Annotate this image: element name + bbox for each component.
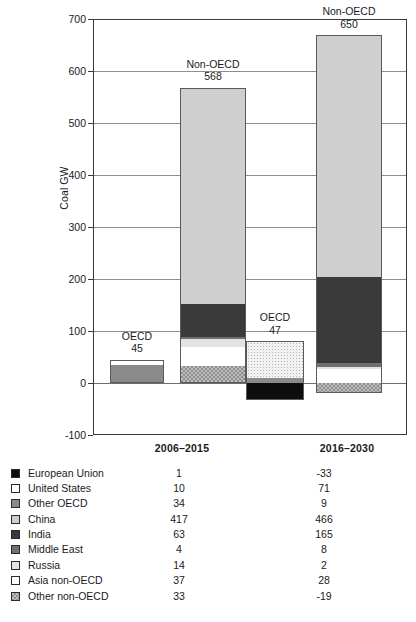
y-axis-tick-label: -100 [48,430,86,440]
legend-series-name: India [28,528,51,541]
legend-swatch-icon [11,515,20,524]
legend-row[interactable]: Russia142 [0,558,416,573]
bar-group-name: Non-OECD [294,5,404,18]
legend-swatch-icon [11,576,20,585]
legend-row[interactable]: Asia non-OECD3728 [0,574,416,589]
y-axis-tick-label: 500 [48,118,86,128]
legend-value-2016-2030: 28 [300,574,348,587]
stacked-bar[interactable] [110,19,164,435]
legend-value-2016-2030: 2 [300,559,348,572]
bar-total-annotation: Non-OECD650 [294,5,404,30]
bar-segment[interactable] [110,365,164,383]
legend-swatch-icon [11,499,20,508]
bar-group-name: OECD [82,330,192,343]
legend-swatch-icon [11,545,20,554]
legend-swatch-icon [11,530,20,539]
x-axis-category-label: 2016–2030 [287,442,407,454]
legend-series-name: Asia non-OECD [28,574,103,587]
legend-value-2016-2030: 71 [300,482,348,495]
legend-value-2006-2015: 1 [155,467,203,480]
stacked-bar[interactable] [316,19,382,435]
legend-value-2006-2015: 14 [155,559,203,572]
legend-series-name: Other OECD [28,497,88,510]
legend-value-2006-2015: 33 [155,590,203,603]
legend-series-name: Other non-OECD [28,590,109,603]
bar-total-value: 45 [82,342,192,355]
stacked-bar[interactable] [246,19,304,435]
y-axis-tick-label: 300 [48,222,86,232]
legend-value-2016-2030: -19 [300,590,348,603]
bar-segment[interactable] [316,363,382,367]
legend-value-2016-2030: -33 [300,467,348,480]
legend-series-name: United States [28,482,91,495]
legend-value-2016-2030: 8 [300,543,348,556]
legend-row[interactable]: Other OECD349 [0,497,416,512]
legend-swatch-icon [11,561,20,570]
bar-total-value: 47 [220,324,330,337]
legend-row[interactable]: United States1071 [0,481,416,496]
legend-swatch-icon [11,469,20,478]
bar-total-value: 650 [294,18,404,31]
y-axis-tick-label: 700 [48,14,86,24]
legend-series-name: Russia [28,559,60,572]
bar-segment[interactable] [316,368,382,383]
y-axis-tick-label: 100 [48,326,86,336]
legend-row[interactable]: Other non-OECD33-19 [0,589,416,604]
bar-segment[interactable] [316,35,382,277]
x-axis-category-label: 2006–2015 [122,442,242,454]
bar-segment[interactable] [316,277,382,363]
bar-segment[interactable] [110,360,164,361]
legend-series-name: European Union [28,467,104,480]
legend-swatch-icon [11,484,20,493]
bar-segment[interactable] [180,337,246,339]
bar-segment[interactable] [180,88,246,305]
legend-value-2006-2015: 37 [155,574,203,587]
legend-swatch-icon [11,592,20,601]
legend-value-2016-2030: 9 [300,497,348,510]
bar-segment[interactable] [246,341,304,378]
bar-segment[interactable] [246,383,304,400]
bar-group-name: OECD [220,311,330,324]
y-axis-tick-label: 0 [48,378,86,388]
y-axis-tick-label: 200 [48,274,86,284]
bar-segment[interactable] [316,367,382,368]
bar-segment[interactable] [180,347,246,366]
bar-total-annotation: OECD45 [82,330,192,355]
legend-series-name: Middle East [28,543,83,556]
bar-segment[interactable] [110,360,164,365]
y-axis-tick-label: 600 [48,66,86,76]
bar-segment[interactable] [180,339,246,346]
bar-segment[interactable] [180,366,246,383]
legend-table: European Union1-33United States1071Other… [0,466,416,605]
legend-value-2016-2030: 165 [300,528,348,541]
bar-total-annotation: OECD47 [220,311,330,336]
legend-value-2006-2015: 417 [155,513,203,526]
legend-row[interactable]: Middle East48 [0,543,416,558]
y-axis-tick-label: 400 [48,170,86,180]
legend-value-2006-2015: 63 [155,528,203,541]
coal-capacity-stacked-bar-chart: Coal GW 7006005004003002001000-100 OECD4… [0,0,416,465]
legend-row[interactable]: China417466 [0,512,416,527]
y-axis-tick-mark [88,435,93,436]
legend-series-name: China [28,513,55,526]
legend-row[interactable]: European Union1-33 [0,466,416,481]
legend-row[interactable]: India63165 [0,528,416,543]
legend-value-2006-2015: 4 [155,543,203,556]
legend-value-2006-2015: 10 [155,482,203,495]
bar-segment[interactable] [316,383,382,393]
legend-value-2006-2015: 34 [155,497,203,510]
legend-value-2016-2030: 466 [300,513,348,526]
